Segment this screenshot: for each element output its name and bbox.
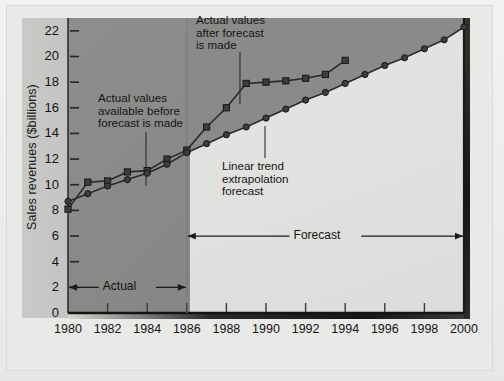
y-tick-label: 18	[33, 74, 59, 89]
annotation-line: forecast is made	[98, 117, 194, 130]
annotation-line: forecast	[222, 185, 318, 198]
annotation-actual-before-forecast: Actual values available before forecast …	[98, 92, 194, 130]
y-tick-label: 14	[33, 125, 59, 140]
y-tick-label: 0	[33, 305, 59, 320]
y-tick-label: 22	[33, 23, 59, 38]
y-tick-label: 8	[33, 202, 59, 217]
y-tick-label: 10	[33, 177, 59, 192]
x-tick-label: 1996	[363, 322, 407, 336]
annotation-line: Linear trend	[222, 160, 318, 173]
range-label-forecast: Forecast	[291, 228, 344, 242]
annotation-line: Actual values	[196, 14, 288, 27]
y-tick-label: 4	[33, 254, 59, 269]
range-label-actual: Actual	[100, 279, 139, 293]
y-tick-label: 12	[33, 151, 59, 166]
x-tick-label: 1990	[244, 322, 288, 336]
x-tick-label: 2000	[442, 322, 486, 336]
x-tick-label: 1986	[165, 322, 209, 336]
y-tick-label: 16	[33, 100, 59, 115]
chart-figure: Sales revenues ($billions) 0246810121416…	[0, 0, 504, 381]
y-tick-label: 6	[33, 228, 59, 243]
annotation-linear-trend: Linear trend extrapolation forecast	[222, 160, 318, 198]
x-tick-label: 1998	[402, 322, 446, 336]
x-tick-label: 1992	[284, 322, 328, 336]
annotation-line: is made	[196, 39, 288, 52]
annotation-actual-after-forecast: Actual values after forecast is made	[196, 14, 288, 52]
x-tick-label: 1988	[204, 322, 248, 336]
x-tick-label: 1984	[125, 322, 169, 336]
x-tick-label: 1982	[86, 322, 130, 336]
y-tick-label: 20	[33, 48, 59, 63]
annotation-line: Actual values	[98, 92, 194, 105]
y-tick-label: 2	[33, 279, 59, 294]
x-tick-label: 1994	[323, 322, 367, 336]
x-tick-label: 1980	[46, 322, 90, 336]
